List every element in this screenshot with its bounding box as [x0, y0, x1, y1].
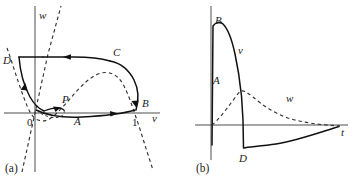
panel-a-label-D: D [2, 54, 11, 66]
panel-b: B A D v w t (b) [195, 6, 348, 175]
panel-b-label-D: D [238, 152, 247, 164]
panel-b-label-A: A [212, 74, 220, 86]
panel-a: D C B A P 0 1 v w (a) [2, 6, 160, 175]
panel-a-arrow-a-to-b [110, 111, 118, 117]
panel-a-label-origin: 0 [27, 116, 33, 128]
panel-b-curve-w [212, 91, 340, 126]
panel-a-axis-y-label: w [39, 9, 47, 21]
panel-b-curve-v [212, 22, 339, 148]
panel-a-cubic-nullcline [7, 48, 153, 170]
panel-a-arrow-c-to-d [63, 54, 71, 60]
panel-b-axis-x-label: t [341, 126, 345, 138]
panel-a-label-tick-one: 1 [132, 116, 138, 128]
panel-a-linear-nullcline [22, 6, 61, 172]
panel-a-caption: (a) [5, 162, 18, 175]
panel-a-label-C: C [113, 46, 121, 58]
panel-a-trajectory-a-to-b [36, 110, 135, 117]
panel-b-curve-w-label: w [286, 92, 294, 104]
figure-root: D C B A P 0 1 v w (a) B A D v w t (b) [0, 0, 355, 180]
panel-b-caption: (b) [196, 162, 210, 175]
panel-b-label-B: B [215, 14, 222, 26]
panel-b-curve-v-label: v [238, 44, 243, 56]
panel-a-trajectory-d-to-p [19, 57, 44, 111]
figure-svg: D C B A P 0 1 v w (a) B A D v w t (b) [0, 0, 355, 180]
panel-a-arrow-loop [53, 107, 61, 113]
panel-a-label-P: P [61, 93, 69, 105]
panel-a-axis-x-label: v [152, 112, 157, 124]
panel-a-trajectory-c-to-d [43, 57, 110, 61]
panel-a-label-B: B [142, 97, 149, 109]
panel-a-label-A: A [73, 115, 81, 127]
